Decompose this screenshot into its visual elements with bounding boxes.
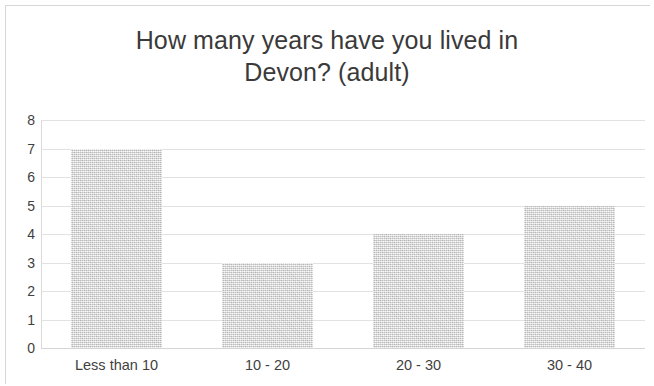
y-tick-label-0: 0: [9, 340, 35, 356]
y-axis-tick-labels: 876543210: [5, 120, 35, 348]
y-tick-label-1: 1: [9, 312, 35, 328]
bar: [71, 149, 162, 349]
y-tick-label-6: 6: [9, 169, 35, 185]
y-tick-label-4: 4: [9, 226, 35, 242]
bar: [524, 206, 615, 349]
bar: [373, 234, 464, 348]
y-tick-label-8: 8: [9, 112, 35, 128]
y-tick-label-7: 7: [9, 141, 35, 157]
plot-area: [41, 120, 645, 348]
chart-title-line-2: Devon? (adult): [30, 56, 624, 88]
y-tick-label-3: 3: [9, 255, 35, 271]
y-tick-label-2: 2: [9, 283, 35, 299]
gridline-0: [41, 348, 645, 349]
x-tick-label: 10 - 20: [192, 357, 343, 373]
x-axis-tick-labels: Less than 1010 - 2020 - 3030 - 40: [41, 357, 645, 381]
gridline-8: [41, 120, 645, 121]
chart-title-line-1: How many years have you lived in: [30, 24, 624, 56]
bar: [222, 263, 313, 349]
x-tick-label: 30 - 40: [494, 357, 645, 373]
chart-container: How many years have you lived inDevon? (…: [0, 0, 654, 386]
x-tick-label: 20 - 30: [343, 357, 494, 373]
x-tick-label: Less than 10: [41, 357, 192, 373]
y-tick-label-5: 5: [9, 198, 35, 214]
chart-title: How many years have you lived inDevon? (…: [30, 24, 624, 88]
